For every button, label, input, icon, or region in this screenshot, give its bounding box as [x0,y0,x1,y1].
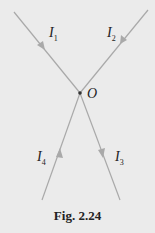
label-o: O [87,87,97,101]
junction-point-icon [78,91,82,95]
wire-i4 [42,93,80,200]
label-i1: I1 [49,26,58,43]
label-i4: I4 [37,150,46,167]
label-i2: I2 [107,26,116,43]
figure-caption: Fig. 2.24 [0,208,155,224]
wire-i1 [14,12,80,93]
circuit-junction-figure: I1 I2 O I3 I4 Fig. 2.24 [0,0,155,233]
wire-i2 [80,10,148,93]
label-i3: I3 [115,150,124,167]
wire-i3 [80,93,120,200]
junction-diagram [0,0,155,233]
arrow-i4-icon [56,148,63,158]
